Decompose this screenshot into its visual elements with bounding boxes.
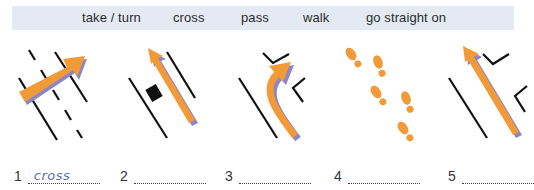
arrow-passing-car-icon	[115, 40, 225, 155]
answer-field[interactable]	[462, 170, 534, 184]
picture-4	[335, 40, 445, 155]
word-go-straight-on: go straight on	[366, 10, 446, 25]
answer-1: 1cross	[14, 168, 100, 184]
answer-5: 5	[448, 168, 534, 184]
picture-3	[225, 40, 335, 155]
answer-number: 2	[120, 168, 128, 184]
word-pass: pass	[241, 10, 269, 25]
footprints-icon	[335, 40, 445, 155]
word-cross: cross	[173, 10, 205, 25]
picture-2	[115, 40, 225, 155]
picture-1	[5, 40, 115, 155]
answer-number: 4	[334, 168, 342, 184]
answer-field[interactable]: cross	[28, 170, 100, 184]
answer-number: 1	[14, 168, 22, 184]
answer-field[interactable]	[239, 170, 311, 184]
answer-field[interactable]	[134, 170, 206, 184]
arrow-turning-icon	[225, 40, 335, 155]
arrow-crossing-road-icon	[5, 40, 115, 155]
word-take-turn: take / turn	[82, 10, 141, 25]
arrow-straight-on-icon	[435, 40, 534, 155]
answer-2: 2	[120, 168, 206, 184]
answer-3: 3	[225, 168, 311, 184]
answer-4: 4	[334, 168, 420, 184]
picture-5	[435, 40, 534, 155]
car-icon	[145, 84, 162, 102]
answer-value: cross	[34, 168, 71, 183]
answer-number: 5	[448, 168, 456, 184]
answer-field[interactable]	[348, 170, 420, 184]
answer-number: 3	[225, 168, 233, 184]
word-walk: walk	[303, 10, 329, 25]
